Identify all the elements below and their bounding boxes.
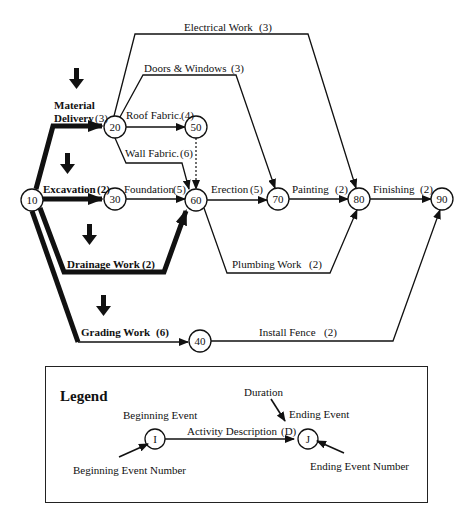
duration-plumbing: (2)	[309, 258, 322, 270]
label-foundation: Foundation	[124, 183, 174, 195]
duration-install-fence: (2)	[324, 326, 337, 338]
label-painting: Painting	[292, 183, 329, 195]
legend-beginning-event-number: Beginning Event Number	[73, 464, 186, 476]
duration-grading: (6)	[156, 326, 169, 338]
arrow-install-fence	[211, 210, 440, 341]
label-finishing: Finishing	[373, 183, 415, 195]
legend-ending-event-number: Ending Event Number	[310, 460, 409, 472]
duration-painting: (2)	[335, 183, 348, 195]
label-drainage: Drainage Work	[67, 258, 140, 270]
label-electrical: Electrical Work	[184, 21, 253, 33]
event-node-10: 10	[21, 189, 43, 211]
down-arrow-icon-excavation	[60, 153, 75, 174]
arrow-wall-fabric	[115, 138, 189, 189]
label-roof-fabric: Roof Fabric.	[126, 109, 182, 121]
label-wall-fabric: Wall Fabric.	[125, 147, 179, 159]
duration-doors-windows: (3)	[231, 62, 244, 74]
legend-duration: Duration	[244, 386, 283, 398]
duration-roof-fabric: (4)	[181, 109, 194, 121]
label-doors-windows: Doors & Windows	[144, 62, 226, 74]
duration-foundation: (5)	[173, 183, 186, 195]
event-node-90: 90	[431, 188, 453, 210]
event-node-60: 60	[185, 189, 207, 211]
legend-ending-event: Ending Event	[289, 408, 349, 420]
critical-path-grading	[32, 211, 188, 342]
label-material-delivery: Material	[54, 99, 95, 111]
legend-activity-description: Activity Description	[187, 425, 277, 437]
duration-material-delivery: (3)	[95, 112, 108, 124]
duration-erection: (5)	[250, 183, 263, 195]
legend-end-node: J	[297, 428, 319, 450]
label-grading: Grading Work	[81, 326, 150, 338]
down-arrow-icon-drainage	[82, 224, 97, 245]
down-arrow-icon-material	[69, 68, 84, 89]
label-plumbing: Plumbing Work	[232, 258, 302, 270]
legend-title: Legend	[60, 388, 108, 405]
label-material-delivery-2: Delivery	[54, 112, 94, 124]
down-arrow-icon-grading	[96, 295, 111, 316]
legend-start-node: I	[144, 428, 166, 450]
event-node-70: 70	[267, 188, 289, 210]
duration-electrical: (3)	[259, 21, 272, 33]
legend-beginning-event: Beginning Event	[123, 409, 197, 421]
legend-duration-symbol: (D)	[281, 425, 296, 437]
event-node-80: 80	[348, 188, 370, 210]
duration-excavation: (2)	[97, 183, 110, 195]
label-erection: Erection	[211, 183, 248, 195]
duration-finishing: (2)	[420, 183, 433, 195]
label-install-fence: Install Fence	[259, 326, 316, 338]
label-excavation: Excavation	[43, 183, 96, 195]
duration-drainage: (2)	[142, 258, 155, 270]
event-nodes	[21, 116, 453, 352]
duration-wall-fabric: (6)	[180, 147, 193, 159]
event-node-40: 40	[189, 330, 211, 352]
